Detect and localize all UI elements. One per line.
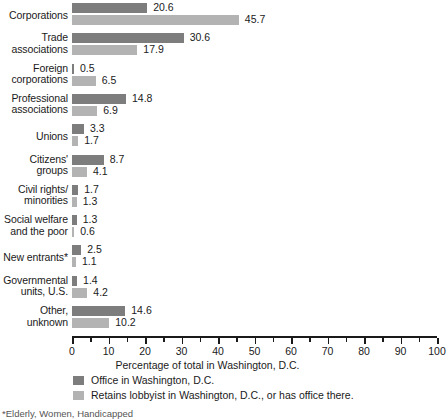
- bar-group: Professional associations14.86.9: [0, 93, 447, 124]
- legend-item-office: Office in Washington, D.C.: [73, 374, 447, 389]
- bar: [72, 288, 87, 298]
- bar-value-label: 1.3: [83, 214, 98, 225]
- axis-tick-label: 40: [212, 345, 224, 357]
- axis-tick-major: [291, 338, 293, 344]
- x-axis: 0102030405060708090100 Percentage of tot…: [0, 336, 447, 372]
- bar-value-label: 4.2: [93, 287, 108, 298]
- plot-area: Corporations20.645.7Trade associations30…: [0, 0, 447, 336]
- x-axis-title-text: Percentage of total in Washington, D.C.: [115, 359, 299, 371]
- legend-label-office: Office in Washington, D.C.: [91, 374, 214, 387]
- category-label: New entrants*: [0, 252, 68, 264]
- legend-item-lobbyist: Retains lobbyist in Washington, D.C., or…: [73, 389, 447, 404]
- bar: [72, 306, 125, 316]
- bar-value-label: 6.5: [102, 75, 117, 86]
- bar: [72, 76, 96, 86]
- category-label: Social welfare and the poor: [0, 214, 68, 237]
- bar-group: New entrants*2.51.1: [0, 244, 447, 275]
- bar: [72, 276, 77, 286]
- bar: [72, 215, 77, 225]
- category-label: Governmental units, U.S.: [0, 275, 68, 298]
- axis-tick-label: 50: [249, 345, 261, 357]
- axis-tick-minor: [382, 338, 384, 342]
- category-label: Corporations: [0, 10, 68, 22]
- bar-value-label: 3.3: [90, 123, 105, 134]
- legend-swatch-office: [73, 376, 84, 385]
- axis-tick-minor: [419, 338, 421, 342]
- legend-swatch-lobbyist: [73, 391, 84, 400]
- axis-tick-label: 60: [285, 345, 297, 357]
- axis-tick-minor: [163, 338, 165, 342]
- bar-value-label: 4.1: [93, 166, 108, 177]
- x-axis-title: Percentage of total in Washington, D.C.: [0, 359, 447, 371]
- bar-value-label: 17.9: [143, 44, 163, 55]
- bar: [72, 45, 137, 55]
- axis-tick-major: [437, 338, 439, 344]
- bar: [72, 197, 77, 207]
- bar-value-label: 1.3: [83, 196, 98, 207]
- bar-value-label: 2.5: [87, 244, 102, 255]
- legend-label-lobbyist: Retains lobbyist in Washington, D.C., or…: [91, 389, 354, 402]
- axis-tick-minor: [309, 338, 311, 342]
- category-label: Trade associations: [0, 32, 68, 55]
- axis-tick-label: 0: [69, 345, 75, 357]
- bar: [72, 106, 97, 116]
- bar: [72, 227, 74, 237]
- bar-group: Unions3.31.7: [0, 123, 447, 154]
- category-label: Citizens' groups: [0, 154, 68, 177]
- chart-footnote: *Elderly, Women, Handicapped: [2, 408, 133, 419]
- axis-tick-label: 80: [358, 345, 370, 357]
- category-label: Other, unknown: [0, 305, 68, 328]
- axis-tick-minor: [273, 338, 275, 342]
- axis-tick-major: [364, 338, 366, 344]
- bar-value-label: 45.7: [245, 14, 265, 25]
- bar-value-label: 8.7: [110, 154, 125, 165]
- chart-legend: Office in Washington, D.C. Retains lobby…: [73, 374, 447, 404]
- axis-tick-major: [328, 338, 330, 344]
- category-label: Foreign corporations: [0, 63, 68, 86]
- bar: [72, 124, 84, 134]
- category-label: Unions: [0, 131, 68, 143]
- bar-value-label: 14.6: [131, 305, 151, 316]
- bar-value-label: 0.6: [80, 226, 95, 237]
- bar: [72, 136, 78, 146]
- axis-tick-major: [182, 338, 184, 344]
- bar-group: Civil rights/ minorities1.71.3: [0, 184, 447, 215]
- category-label: Civil rights/ minorities: [0, 184, 68, 207]
- bar: [72, 94, 126, 104]
- bar: [72, 318, 109, 328]
- axis-tick-label: 90: [395, 345, 407, 357]
- bar-value-label: 1.7: [84, 184, 99, 195]
- bar: [72, 257, 76, 267]
- bar-value-label: 14.8: [132, 93, 152, 104]
- bar-group: Foreign corporations0.56.5: [0, 63, 447, 94]
- bar-value-label: 6.9: [103, 105, 118, 116]
- bar: [72, 167, 87, 177]
- bar-chart: Corporations20.645.7Trade associations30…: [0, 0, 447, 419]
- axis-tick-minor: [127, 338, 129, 342]
- axis-tick-minor: [200, 338, 202, 342]
- bar-group: Citizens' groups8.74.1: [0, 154, 447, 185]
- axis-tick-minor: [346, 338, 348, 342]
- bar-group: Social welfare and the poor1.30.6: [0, 214, 447, 245]
- axis-tick-minor: [90, 338, 92, 342]
- axis-tick-label: 100: [428, 345, 446, 357]
- bar-value-label: 1.1: [82, 256, 97, 267]
- bar: [72, 64, 74, 74]
- bar-value-label: 10.2: [115, 317, 135, 328]
- bar: [72, 15, 239, 25]
- axis-tick-label: 10: [103, 345, 115, 357]
- bar-value-label: 1.7: [84, 135, 99, 146]
- bar: [72, 245, 81, 255]
- category-label: Professional associations: [0, 93, 68, 116]
- axis-tick-label: 70: [322, 345, 334, 357]
- axis-tick-minor: [236, 338, 238, 342]
- axis-tick-major: [72, 338, 74, 344]
- bar-group: Governmental units, U.S.1.44.2: [0, 275, 447, 306]
- axis-tick-major: [255, 338, 257, 344]
- bar-value-label: 1.4: [83, 275, 98, 286]
- axis-tick-major: [401, 338, 403, 344]
- bar: [72, 3, 147, 13]
- axis-tick-major: [145, 338, 147, 344]
- axis-tick-label: 30: [176, 345, 188, 357]
- bar-value-label: 20.6: [153, 2, 173, 13]
